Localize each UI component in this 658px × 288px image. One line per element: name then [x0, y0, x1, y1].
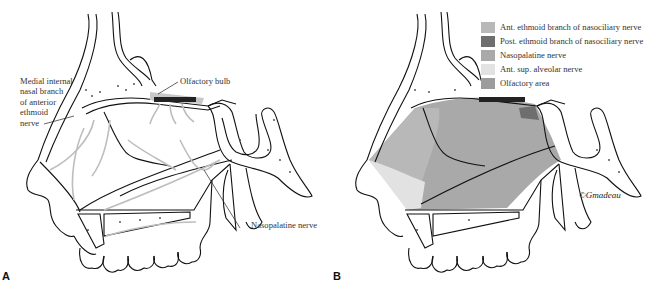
swatch-ant-ethmoid: [481, 22, 495, 33]
panel-letter-a: A: [2, 270, 10, 282]
legend-item-post-ethmoid: Post. ethmoid branch of nasociliary nerv…: [481, 34, 643, 48]
panel-a: Medial internal nasal branch of anterior…: [0, 0, 329, 288]
legend-item-ant-ethmoid: Ant. ethmoid branch of nasociliary nerve: [481, 20, 643, 34]
legend-item-nasopalatine: Nasopalatine nerve: [481, 48, 643, 62]
panel-letter-b: B: [333, 270, 341, 282]
legend: Ant. ethmoid branch of nasociliary nerve…: [481, 20, 643, 90]
swatch-nasopalatine: [481, 50, 495, 61]
artist-signature: ©Gmadeau: [579, 190, 621, 200]
swatch-ant-sup-alveolar: [481, 64, 495, 75]
nasal-cavity-nerve-drawing: [0, 0, 329, 288]
label-olfactory-bulb: Olfactory bulb: [180, 76, 230, 86]
label-medial-internal-nasal-branch: Medial internal nasal branch of anterior…: [20, 76, 73, 128]
panel-b: ©Gmadeau Ant. ethmoid branch of nasocili…: [329, 0, 658, 288]
label-nasopalatine-nerve: Nasopalatine nerve: [251, 220, 317, 230]
swatch-post-ethmoid: [481, 36, 495, 47]
legend-item-ant-sup-alveolar: Ant. sup. alveolar nerve: [481, 62, 643, 76]
legend-item-olfactory-area: Olfactory area: [481, 76, 643, 90]
swatch-olfactory-area: [481, 78, 495, 89]
